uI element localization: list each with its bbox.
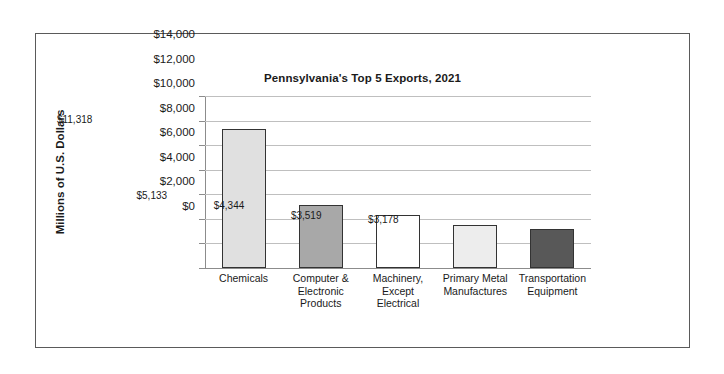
category-label-line: Except (356, 285, 439, 298)
bar-4 (453, 225, 497, 268)
x-axis-category-label: Chemicals (202, 272, 285, 285)
y-axis-tick (199, 96, 205, 97)
y-axis-tick (199, 194, 205, 195)
bar-5 (530, 229, 574, 268)
y-axis-tick-label: $14,000 (115, 28, 195, 40)
category-label-line: Chemicals (202, 272, 285, 285)
x-axis-category-label: TransportationEquipment (511, 272, 594, 297)
y-axis-tick-label: $8,000 (115, 102, 195, 114)
y-axis-tick-label: $0 (115, 200, 195, 212)
bar-1 (222, 129, 266, 268)
plot-area (205, 96, 591, 268)
bar-value-label: $5,133 (112, 190, 192, 201)
y-axis-tick-label: $12,000 (115, 53, 195, 65)
category-label-line: Machinery, (356, 272, 439, 285)
category-label-line: Products (279, 297, 362, 310)
y-axis-tick (199, 268, 205, 269)
gridline (205, 121, 591, 122)
category-label-line: Equipment (511, 285, 594, 298)
category-label-line: Computer & (279, 272, 362, 285)
x-axis-category-label: Primary MetalManufactures (434, 272, 517, 297)
bar-value-label: $4,344 (189, 200, 269, 211)
gridline (205, 96, 591, 97)
bar-value-label: $3,178 (343, 214, 423, 225)
category-label-line: Electronic (279, 285, 362, 298)
y-axis-tick-label: $2,000 (115, 175, 195, 187)
y-axis-tick (199, 121, 205, 122)
bar-value-label: $11,318 (35, 114, 115, 125)
category-label-line: Primary Metal (434, 272, 517, 285)
bar-value-label: $3,519 (266, 210, 346, 221)
chart-figure-frame: Pennsylvania's Top 5 Exports, 2021 Milli… (35, 33, 690, 348)
gridline (205, 268, 591, 269)
category-label-line: Transportation (511, 272, 594, 285)
y-axis-tick (199, 219, 205, 220)
x-axis-category-label: Machinery,ExceptElectrical (356, 272, 439, 310)
x-axis-category-label: Computer &ElectronicProducts (279, 272, 362, 310)
y-axis-tick (199, 145, 205, 146)
y-axis-tick-label: $10,000 (115, 77, 195, 89)
y-axis-tick-label: $6,000 (115, 126, 195, 138)
y-axis-tick (199, 243, 205, 244)
category-label-line: Electrical (356, 297, 439, 310)
y-axis-tick (199, 170, 205, 171)
category-label-line: Manufactures (434, 285, 517, 298)
y-axis-tick-label: $4,000 (115, 151, 195, 163)
